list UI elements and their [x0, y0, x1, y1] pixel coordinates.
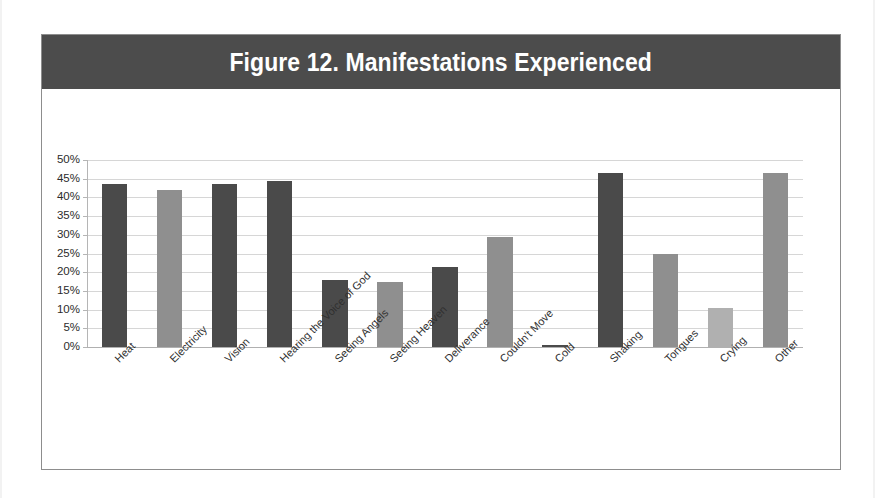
bar: [102, 184, 127, 347]
figure-screenshot: Figure 12. Manifestations Experienced 50…: [0, 0, 875, 498]
bar: [212, 184, 237, 347]
x-axis-labels: HeatElectricityVisionHearing the Voice o…: [87, 351, 803, 461]
bar: [653, 254, 678, 348]
chart-plot-area: 50%45%40%35%30%25%20%15%10%5%0% HeatElec…: [42, 89, 840, 469]
bar: [598, 173, 623, 347]
figure-title-banner: Figure 12. Manifestations Experienced: [42, 35, 840, 89]
y-tick-label: 30%: [57, 229, 80, 241]
y-axis-labels: 50%45%40%35%30%25%20%15%10%5%0%: [42, 160, 84, 360]
y-tick-label: 35%: [57, 210, 80, 222]
y-tick-label: 20%: [57, 266, 80, 278]
bar: [157, 190, 182, 347]
gridline-0: [87, 347, 803, 348]
y-tick-label: 50%: [57, 154, 80, 166]
y-tick-label: 5%: [63, 323, 80, 335]
bars-group: [87, 160, 803, 347]
y-tick-label: 40%: [57, 192, 80, 204]
y-tick-label: 0%: [63, 341, 80, 353]
scan-edge-left: [0, 0, 2, 498]
y-tick-label: 15%: [57, 285, 80, 297]
bar: [763, 173, 788, 347]
y-tick-label: 10%: [57, 304, 80, 316]
bar: [267, 181, 292, 347]
y-tick-label: 45%: [57, 173, 80, 185]
figure-title: Figure 12. Manifestations Experienced: [230, 48, 653, 77]
figure-frame: Figure 12. Manifestations Experienced 50…: [41, 34, 841, 470]
y-tick-label: 25%: [57, 248, 80, 260]
bar: [708, 308, 733, 347]
bar: [487, 237, 512, 347]
